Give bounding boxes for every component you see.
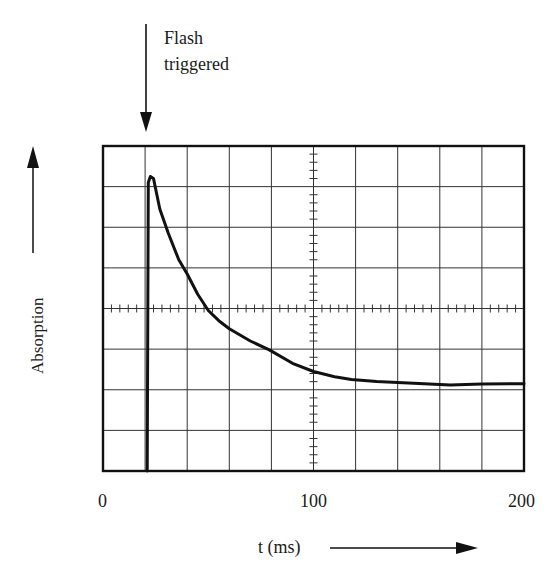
x-axis-arrowhead-icon <box>456 542 478 554</box>
y-axis-label-group: Absorption <box>27 146 47 374</box>
absorption-curve <box>147 177 524 472</box>
y-axis-label: Absorption <box>28 297 47 374</box>
x-tick-0: 0 <box>98 491 107 511</box>
oscilloscope-chart: Flash triggered Absorption 0 100 200 t (… <box>0 0 558 575</box>
x-tick-200: 200 <box>508 491 535 511</box>
x-tick-100: 100 <box>300 491 327 511</box>
flash-label-line1: Flash <box>164 28 203 48</box>
flash-annotation: Flash triggered <box>140 24 229 132</box>
x-axis-label: t (ms) <box>258 537 301 558</box>
y-axis-arrowhead-icon <box>27 146 39 168</box>
flash-arrowhead-icon <box>140 112 152 132</box>
flash-label-line2: triggered <box>164 54 229 74</box>
x-axis-label-group: t (ms) <box>258 537 478 558</box>
grid <box>103 146 524 471</box>
